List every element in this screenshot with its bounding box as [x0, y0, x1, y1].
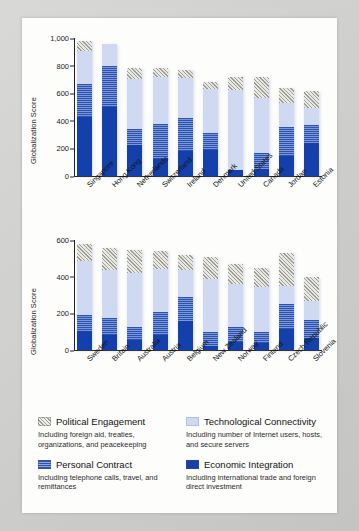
chart-top-x-labels: SingaporeHong KongNetherlandsSwitzerland… — [74, 178, 322, 224]
bar-column — [77, 240, 92, 350]
segment-technological-connectivity — [178, 270, 193, 297]
segment-political-engagement — [279, 88, 294, 102]
legend-head: Political Engagement — [38, 416, 178, 427]
segment-personal-contract — [127, 129, 142, 145]
bar-new-zealand — [203, 257, 218, 350]
figure-card: Globalization Score 02004006008001,000 S… — [22, 18, 337, 513]
segment-technological-connectivity — [77, 261, 92, 314]
legend-label-political-engagement: Political Engagement — [56, 416, 145, 427]
x-label-cell: Hong Kong — [102, 178, 117, 224]
legend-item-economic-integration[interactable]: Economic IntegrationIncluding internatio… — [186, 459, 326, 493]
chart-bottom-x-labels: SwedenBritainAustraliaAustriaBelgiumNew … — [74, 352, 322, 402]
segment-technological-connectivity — [153, 269, 168, 312]
legend-description-political-engagement: Including foreign aid, treaties, organiz… — [38, 430, 178, 450]
legend-item-political-engagement[interactable]: Political EngagementIncluding foreign ai… — [38, 416, 178, 450]
x-label-cell: Singapore — [77, 178, 92, 224]
segment-personal-contract — [77, 315, 92, 332]
legend-description-economic-integration: Including international trade and foreig… — [186, 473, 326, 493]
chart-top-y-axis-label: Globalization Score — [26, 30, 40, 230]
segment-political-engagement — [127, 68, 142, 79]
bar-column — [178, 240, 193, 350]
bar-jordan — [279, 88, 294, 176]
segment-technological-connectivity — [102, 44, 117, 65]
segment-technological-connectivity — [102, 270, 117, 318]
segment-technological-connectivity — [127, 79, 142, 129]
legend-label-economic-integration: Economic Integration — [204, 459, 293, 470]
segment-political-engagement — [228, 77, 243, 90]
segment-political-engagement — [153, 68, 168, 77]
segment-political-engagement — [77, 41, 92, 51]
chart-legend: Political EngagementIncluding foreign ai… — [38, 416, 326, 492]
segment-technological-connectivity — [279, 103, 294, 127]
bar-australia — [127, 250, 142, 350]
x-label-cell: New Zealand — [203, 352, 218, 402]
segment-technological-connectivity — [77, 51, 92, 84]
legend-label-technological-connectivity: Technological Connectivity — [204, 416, 316, 427]
bar-finland — [254, 268, 269, 350]
bar-column — [304, 38, 319, 176]
x-label-cell: Czech Republic — [279, 352, 294, 402]
y-tick-0: 0 — [65, 346, 69, 355]
x-label-cell: Jordan — [279, 178, 294, 224]
x-label-cell: Sweden — [77, 352, 92, 402]
x-label-cell: Finland — [254, 352, 269, 402]
x-label-cell: Denmark — [203, 178, 218, 224]
segment-political-engagement — [254, 268, 269, 287]
segment-political-engagement — [203, 257, 218, 279]
y-tick-600: 600 — [56, 89, 69, 98]
chart-bottom-bars — [74, 240, 322, 350]
chart-bottom-y-ticks: 0200400600 — [40, 240, 74, 350]
segment-political-engagement — [228, 264, 243, 284]
segment-political-engagement — [153, 251, 168, 269]
bar-column — [153, 240, 168, 350]
x-label-cell: Australia — [127, 352, 142, 402]
bar-column — [203, 240, 218, 350]
bar-column — [279, 240, 294, 350]
legend-item-technological-connectivity[interactable]: Technological ConnectivityIncluding numb… — [186, 416, 326, 450]
x-label-cell: Netherlands — [127, 178, 142, 224]
y-tick-400: 400 — [56, 116, 69, 125]
y-tick-600: 600 — [56, 236, 69, 245]
x-label-cell: Austria — [153, 352, 168, 402]
x-label-cell: Ireland — [178, 178, 193, 224]
bar-column — [203, 38, 218, 176]
segment-technological-connectivity — [254, 98, 269, 153]
legend-item-personal-contract[interactable]: Personal ContractIncluding telephone cal… — [38, 459, 178, 493]
bar-column — [178, 38, 193, 176]
bar-sweden — [77, 244, 92, 350]
page-root: Globalization Score 02004006008001,000 S… — [0, 0, 359, 531]
segment-personal-contract — [102, 318, 117, 335]
legend-description-technological-connectivity: Including number of Internet users, host… — [186, 430, 326, 450]
legend-swatch-personal-contract — [38, 460, 51, 469]
legend-swatch-technological-connectivity — [186, 417, 199, 426]
bar-belgium — [178, 255, 193, 350]
bar-column — [102, 240, 117, 350]
segment-personal-contract — [153, 312, 168, 335]
segment-political-engagement — [77, 244, 92, 261]
segment-personal-contract — [102, 66, 117, 107]
bar-column — [102, 38, 117, 176]
x-label-cell: Slovenia — [304, 352, 319, 402]
segment-political-engagement — [127, 250, 142, 273]
x-label-cell: Switzerland — [153, 178, 168, 224]
y-tick-800: 800 — [56, 61, 69, 70]
segment-technological-connectivity — [279, 286, 294, 304]
legend-head: Economic Integration — [186, 459, 326, 470]
segment-technological-connectivity — [304, 108, 319, 125]
segment-personal-contract — [304, 125, 319, 143]
legend-head: Personal Contract — [38, 459, 178, 470]
bar-column — [254, 240, 269, 350]
chart-top: Globalization Score 02004006008001,000 S… — [22, 30, 337, 230]
segment-technological-connectivity — [153, 77, 168, 124]
segment-political-engagement — [304, 277, 319, 301]
segment-political-engagement — [254, 77, 269, 98]
x-label-cell: Estonia — [304, 178, 319, 224]
segment-political-engagement — [203, 82, 218, 89]
x-label-cell: Belgium — [178, 352, 193, 402]
bar-britain — [102, 248, 117, 350]
bar-column — [127, 38, 142, 176]
segment-technological-connectivity — [203, 89, 218, 133]
segment-personal-contract — [178, 118, 193, 151]
segment-personal-contract — [77, 84, 92, 117]
segment-political-engagement — [279, 253, 294, 286]
